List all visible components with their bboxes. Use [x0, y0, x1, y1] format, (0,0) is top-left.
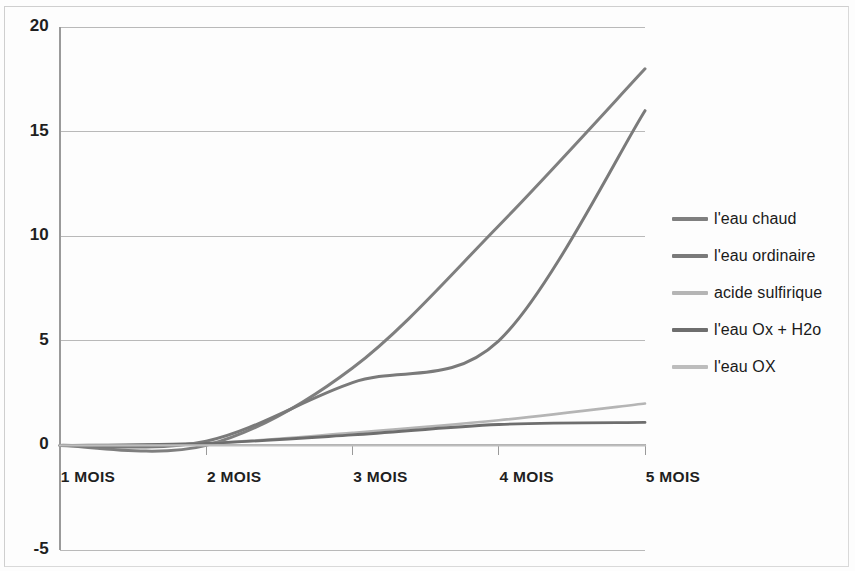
y-tick-label: 15: [5, 121, 49, 141]
legend-item-1[interactable]: l'eau ordinaire: [672, 237, 852, 274]
y-tick-label: -5: [5, 539, 49, 559]
legend-label: l'eau Ox + H2o: [714, 321, 821, 339]
legend-item-3[interactable]: l'eau Ox + H2o: [672, 311, 852, 348]
legend-label: acide sulfirique: [714, 284, 822, 302]
x-tick-label: 4 MOIS: [467, 468, 587, 486]
legend-label: l'eau chaud: [714, 210, 796, 228]
y-tick-label: 0: [5, 434, 49, 454]
legend-item-4[interactable]: l'eau OX: [672, 348, 852, 385]
series-line-1: [60, 111, 645, 447]
legend-color-swatch: [672, 217, 708, 221]
y-tick-label: 20: [5, 16, 49, 36]
y-tick-label: 10: [5, 225, 49, 245]
series-lines: [60, 69, 645, 451]
legend-label: l'eau OX: [714, 358, 776, 376]
legend-color-swatch: [672, 328, 708, 332]
x-tick-label: 2 MOIS: [174, 468, 294, 486]
x-tick-label: 3 MOIS: [321, 468, 441, 486]
series-line-3: [60, 422, 645, 445]
x-tick-label: 1 MOIS: [28, 468, 148, 486]
series-line-2: [60, 404, 645, 446]
legend-label: l'eau ordinaire: [714, 247, 816, 265]
chart-container: 20151050-5 1 MOIS2 MOIS3 MOIS4 MOIS5 MOI…: [0, 0, 855, 571]
legend-color-swatch: [672, 365, 708, 369]
chart-legend: l'eau chaudl'eau ordinaireacide sulfiriq…: [672, 200, 852, 385]
legend-item-0[interactable]: l'eau chaud: [672, 200, 852, 237]
legend-color-swatch: [672, 291, 708, 295]
legend-item-2[interactable]: acide sulfirique: [672, 274, 852, 311]
legend-color-swatch: [672, 254, 708, 258]
y-tick-label: 5: [5, 330, 49, 350]
x-tick-label: 5 MOIS: [613, 468, 733, 486]
